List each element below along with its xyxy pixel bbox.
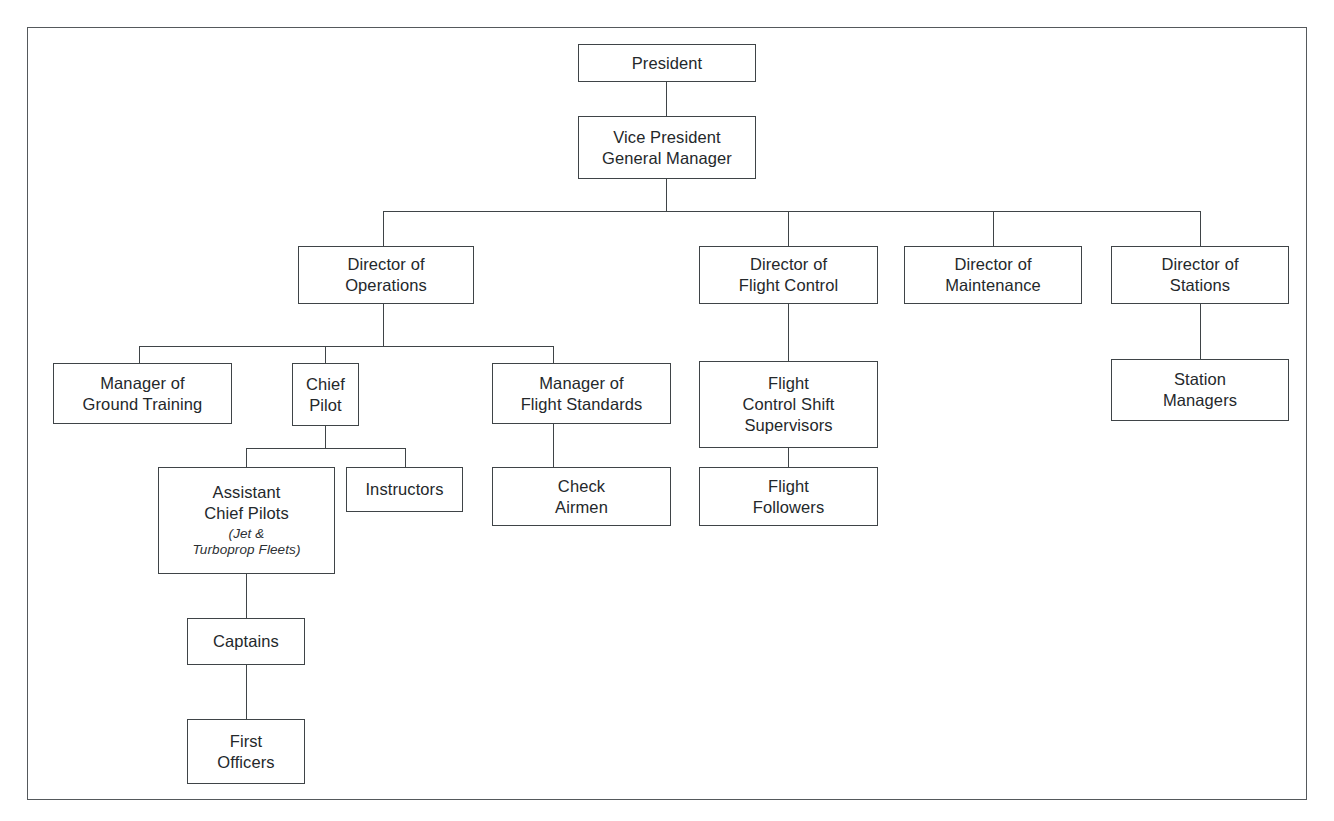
node-director-of-operations-label: Director of Operations xyxy=(345,254,427,296)
node-captains[interactable]: Captains xyxy=(187,618,305,665)
node-check-airmen-label: Check Airmen xyxy=(555,476,608,518)
node-assistant-chief-pilots-sublabel: (Jet & Turboprop Fleets) xyxy=(193,526,301,559)
node-vice-president-label: Vice President General Manager xyxy=(602,127,732,169)
node-chief-pilot[interactable]: Chief Pilot xyxy=(292,363,359,426)
connector-bus-to-operations xyxy=(383,211,384,246)
connector-bus-to-ground-training xyxy=(139,346,140,363)
connector-bus-to-instructors xyxy=(405,448,406,467)
node-director-of-stations[interactable]: Director of Stations xyxy=(1111,246,1289,304)
connector-vp-to-bus xyxy=(666,179,667,211)
node-director-of-operations[interactable]: Director of Operations xyxy=(298,246,474,304)
connector-supervisors-to-followers xyxy=(788,448,789,467)
node-flight-followers-label: Flight Followers xyxy=(753,476,825,518)
connector-assistant-chief-pilots-to-captains xyxy=(246,574,247,618)
node-chief-pilot-label: Chief Pilot xyxy=(306,374,345,416)
connector-chief-pilot-to-bus xyxy=(325,426,326,448)
node-director-of-stations-label: Director of Stations xyxy=(1161,254,1238,296)
connector-chief-pilot-child-bus xyxy=(246,448,405,449)
node-director-of-maintenance[interactable]: Director of Maintenance xyxy=(904,246,1082,304)
node-manager-of-flight-standards-label: Manager of Flight Standards xyxy=(521,373,643,415)
node-check-airmen[interactable]: Check Airmen xyxy=(492,467,671,526)
connector-flight-standards-to-check-airmen xyxy=(553,424,554,467)
node-president[interactable]: President xyxy=(578,44,756,82)
connector-bus-to-maintenance xyxy=(993,211,994,246)
node-manager-of-ground-training[interactable]: Manager of Ground Training xyxy=(53,363,232,424)
connector-bus-to-assistant-chief-pilots xyxy=(246,448,247,467)
connector-director-bus xyxy=(383,211,1200,212)
node-director-of-flight-control[interactable]: Director of Flight Control xyxy=(699,246,878,304)
node-first-officers-label: First Officers xyxy=(217,731,274,773)
node-flight-control-shift-supervisors[interactable]: Flight Control Shift Supervisors xyxy=(699,361,878,448)
node-captains-label: Captains xyxy=(213,631,279,652)
node-vice-president[interactable]: Vice President General Manager xyxy=(578,116,756,179)
connector-bus-to-flight-standards xyxy=(553,346,554,363)
node-manager-of-flight-standards[interactable]: Manager of Flight Standards xyxy=(492,363,671,424)
node-instructors-label: Instructors xyxy=(365,479,443,500)
chart-frame: President Vice President General Manager… xyxy=(27,27,1307,800)
connector-captains-to-first-officers xyxy=(246,665,247,719)
node-president-label: President xyxy=(632,53,703,74)
connector-flight-control-to-supervisors xyxy=(788,304,789,361)
node-assistant-chief-pilots-label: Assistant Chief Pilots xyxy=(204,482,289,524)
node-assistant-chief-pilots[interactable]: Assistant Chief Pilots (Jet & Turboprop … xyxy=(158,467,335,574)
connector-bus-to-stations xyxy=(1200,211,1201,246)
connector-stations-to-station-managers xyxy=(1200,304,1201,359)
node-first-officers[interactable]: First Officers xyxy=(187,719,305,784)
node-manager-of-ground-training-label: Manager of Ground Training xyxy=(83,373,203,415)
node-station-managers[interactable]: Station Managers xyxy=(1111,359,1289,421)
connector-operations-to-bus xyxy=(383,304,384,346)
node-flight-followers[interactable]: Flight Followers xyxy=(699,467,878,526)
node-station-managers-label: Station Managers xyxy=(1163,369,1237,411)
node-flight-control-shift-supervisors-label: Flight Control Shift Supervisors xyxy=(742,373,834,435)
connector-bus-to-flight-control xyxy=(788,211,789,246)
node-instructors[interactable]: Instructors xyxy=(346,467,463,512)
connector-bus-to-chief-pilot xyxy=(325,346,326,363)
node-director-of-flight-control-label: Director of Flight Control xyxy=(739,254,839,296)
connector-operations-child-bus xyxy=(139,346,553,347)
connector-president-to-vp xyxy=(666,82,667,116)
node-director-of-maintenance-label: Director of Maintenance xyxy=(945,254,1041,296)
